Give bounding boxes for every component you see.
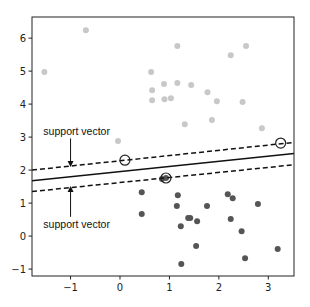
decision-lines [32, 142, 294, 191]
data-point [161, 96, 167, 102]
data-point [161, 81, 167, 87]
support-vector-markers [120, 138, 286, 183]
data-point [204, 89, 210, 95]
data-point [243, 43, 249, 49]
data-point [225, 191, 231, 197]
data-point [174, 203, 180, 209]
y-tick-label: 1 [20, 198, 26, 209]
data-point [175, 192, 181, 198]
data-point [139, 189, 145, 195]
data-point [83, 27, 89, 33]
plot-frame [32, 17, 294, 276]
data-point [228, 52, 234, 58]
data-point [178, 223, 184, 229]
data-point [178, 261, 184, 267]
x-tick-label: 1 [166, 282, 172, 293]
class-lower-points [139, 175, 281, 267]
x-tick-label: 2 [216, 282, 222, 293]
y-tick-label: 3 [20, 132, 26, 143]
data-point [174, 80, 180, 86]
y-tick-label: 0 [20, 231, 26, 242]
y-tick-label: −1 [11, 264, 26, 275]
data-point [149, 97, 155, 103]
data-point [148, 69, 154, 75]
y-tick-label: 4 [20, 99, 26, 110]
data-point [204, 203, 210, 209]
y-tick-label: 6 [20, 33, 26, 44]
data-point [240, 99, 246, 105]
data-point [194, 218, 200, 224]
data-point [174, 43, 180, 49]
upper-margin-line [32, 142, 294, 170]
y-axis-ticks: −10123456 [11, 33, 32, 275]
data-point [209, 117, 215, 123]
data-point [168, 95, 174, 101]
svm-margin-chart: support vectorsupport vector −10123 −101… [0, 0, 310, 307]
data-point [275, 246, 281, 252]
x-tick-label: −1 [63, 282, 78, 293]
x-tick-label: 0 [117, 282, 123, 293]
y-tick-label: 2 [20, 165, 26, 176]
data-point [259, 125, 265, 131]
data-point [139, 211, 145, 217]
data-point [242, 255, 248, 261]
data-point [41, 69, 47, 75]
data-point [182, 121, 188, 127]
data-point [149, 87, 155, 93]
data-point [228, 216, 234, 222]
x-tick-label: 3 [265, 282, 271, 293]
y-tick-label: 5 [20, 66, 26, 77]
annotation-label: support vector [43, 125, 110, 137]
data-point [239, 228, 245, 234]
data-point [255, 201, 261, 207]
data-point [214, 98, 220, 104]
annotation-label: support vector [43, 218, 110, 230]
x-axis-ticks: −10123 [63, 276, 271, 293]
data-point [187, 215, 193, 221]
data-point [193, 243, 199, 249]
data-point [230, 195, 236, 201]
data-point [115, 138, 121, 144]
data-point [188, 82, 194, 88]
annotations: support vectorsupport vector [43, 125, 110, 229]
